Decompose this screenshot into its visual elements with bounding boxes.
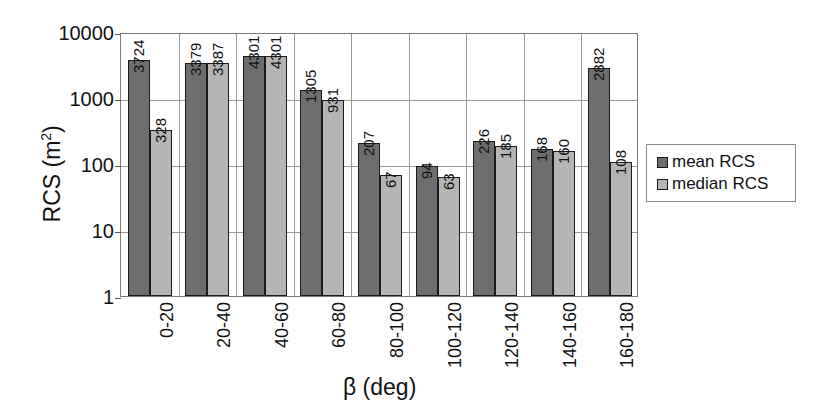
x-axis-category-label: 140-160 — [561, 302, 579, 368]
bar-value-label: 63 — [441, 174, 456, 191]
x-axis-category-label: 80-100 — [388, 302, 406, 358]
x-gridline — [466, 34, 467, 296]
x-axis-category-label: 40-60 — [273, 302, 291, 348]
legend-label-median: median RCS — [672, 174, 768, 194]
y-axis-tick-mark — [115, 232, 121, 233]
x-gridline — [236, 34, 237, 296]
bar-value-label: 328 — [153, 118, 168, 143]
y-axis-tick-mark — [115, 34, 121, 35]
x-axis-category-label: 160-180 — [618, 302, 636, 368]
bar-mean — [185, 63, 207, 296]
bar-mean — [588, 68, 610, 296]
bar-mean — [416, 166, 438, 296]
y-axis-tick-labels: 110100100010000 — [38, 0, 114, 419]
bar-mean — [473, 141, 495, 296]
bar-mean — [358, 143, 380, 296]
bar-value-label: 931 — [325, 88, 340, 113]
x-axis-category-label: 0-20 — [158, 302, 176, 338]
plot-area: 3724328337933874301430113059312076794632… — [120, 33, 638, 297]
legend-label-mean: mean RCS — [672, 152, 755, 172]
y-axis-tick-mark — [115, 166, 121, 167]
x-gridline — [179, 34, 180, 296]
y-axis-tick-label: 10 — [40, 220, 114, 243]
y-axis-tick-label: 10000 — [40, 22, 114, 45]
bar-value-label: 226 — [476, 129, 491, 154]
bar-median — [322, 100, 344, 296]
y-axis-tick-label: 1 — [40, 286, 114, 309]
bar-mean — [300, 90, 322, 296]
bar-median — [495, 146, 517, 296]
x-axis-category-label: 100-120 — [446, 302, 464, 368]
legend-item-mean: mean RCS — [657, 151, 795, 173]
bar-mean — [531, 149, 553, 296]
bar-median — [380, 175, 402, 296]
bar-median — [610, 162, 632, 296]
bar-median — [207, 63, 229, 296]
bar-median — [150, 130, 172, 296]
x-axis-title: β (deg) — [343, 374, 416, 401]
x-gridline — [524, 34, 525, 296]
bar-value-label: 1305 — [303, 70, 318, 103]
bar-mean — [243, 56, 265, 296]
bar-value-label: 160 — [556, 138, 571, 163]
x-axis-category-label: 60-80 — [330, 302, 348, 348]
bar-median — [438, 177, 460, 296]
y-axis-tick-mark — [115, 100, 121, 101]
bar-value-label: 4301 — [246, 36, 261, 69]
bar-value-label: 3387 — [210, 43, 225, 76]
bar-value-label: 2882 — [591, 47, 606, 80]
bar-value-label: 207 — [361, 131, 376, 156]
y-axis-tick-label: 1000 — [40, 88, 114, 111]
y-axis-tick-mark — [115, 298, 121, 299]
x-gridline — [351, 34, 352, 296]
bar-value-label: 4301 — [268, 36, 283, 69]
legend-swatch-mean-icon — [657, 157, 668, 168]
chart-figure: RCS (m2) 110100100010000 372432833793387… — [0, 0, 822, 419]
bar-value-label: 3724 — [131, 40, 146, 73]
x-gridline — [294, 34, 295, 296]
bar-value-label: 67 — [383, 172, 398, 189]
bar-median — [265, 56, 287, 296]
bar-median — [553, 151, 575, 296]
legend-item-median: median RCS — [657, 173, 795, 195]
bar-value-label: 185 — [498, 134, 513, 159]
legend-swatch-median-icon — [657, 179, 668, 190]
x-gridline — [409, 34, 410, 296]
bar-value-label: 94 — [419, 162, 434, 179]
y-axis-tick-label: 100 — [40, 154, 114, 177]
chart-legend: mean RCS median RCS — [646, 144, 796, 202]
bar-value-label: 3379 — [188, 43, 203, 76]
x-gridline — [581, 34, 582, 296]
x-axis-category-label: 120-140 — [503, 302, 521, 368]
x-axis-category-label: 20-40 — [215, 302, 233, 348]
bar-value-label: 168 — [534, 137, 549, 162]
bar-mean — [128, 60, 150, 296]
bar-value-label: 108 — [613, 150, 628, 175]
